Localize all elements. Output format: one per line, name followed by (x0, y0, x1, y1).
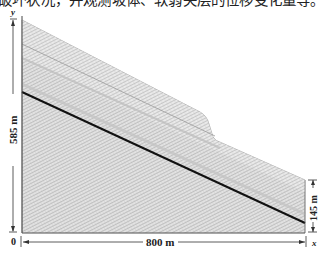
right-height-dimension: 145 m (308, 180, 319, 232)
slope-model-diagram: y 585 m 0 800 m x 145 m (0, 0, 321, 258)
right-height-label: 145 m (308, 195, 319, 222)
origin-label: 0 (11, 236, 16, 247)
y-axis-label: y (10, 7, 16, 17)
width-dimension: 800 m (23, 236, 306, 248)
left-height-dimension: 585 m (7, 20, 19, 232)
width-label: 800 m (146, 236, 174, 248)
x-axis-label: x (311, 238, 317, 248)
left-height-label: 585 m (7, 116, 19, 144)
